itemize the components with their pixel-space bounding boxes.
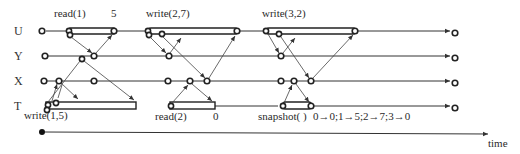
- end-node-y: [452, 55, 458, 61]
- row-label-t: T: [14, 99, 22, 113]
- label-read-2-result: 0: [213, 110, 219, 122]
- label-read-2: read(2): [155, 110, 187, 123]
- row-label-x: X: [14, 74, 23, 88]
- end-node-x: [452, 80, 458, 86]
- label-write-1-5: write(1,5): [24, 109, 68, 122]
- write-1-5-bar: [46, 102, 136, 109]
- start-node-u: [39, 28, 45, 34]
- row-label-u: U: [14, 24, 23, 38]
- label-snapshot-result: 0→0;1→5;2→7;3→0: [313, 110, 411, 122]
- label-write-3-2: write(3,2): [262, 7, 306, 20]
- start-node-x: [41, 78, 47, 84]
- end-node-t: [452, 105, 458, 111]
- op-read-1: [66, 28, 116, 62]
- process-lines: [46, 31, 450, 106]
- time-axis: time: [39, 129, 508, 149]
- end-node-u: [452, 30, 458, 36]
- label-read-1-result: 5: [111, 7, 117, 19]
- time-origin-dot: [39, 129, 45, 135]
- time-axis-line: [45, 132, 488, 134]
- time-axis-label: time: [488, 137, 508, 149]
- start-node-y: [42, 53, 48, 59]
- end-nodes: [452, 30, 458, 111]
- op-read-2: [168, 84, 215, 109]
- label-write-2-7: write(2,7): [146, 7, 190, 20]
- snapshot-timeline-diagram: U Y X T: [0, 0, 520, 154]
- op-write-1-5: [44, 61, 136, 113]
- read-2-bar: [170, 102, 215, 109]
- op-snapshot: [280, 84, 313, 109]
- label-snapshot: snapshot( ): [258, 110, 307, 123]
- read-1-bar: [68, 28, 116, 34]
- row-label-y: Y: [14, 49, 23, 63]
- label-read-1: read(1): [54, 7, 86, 20]
